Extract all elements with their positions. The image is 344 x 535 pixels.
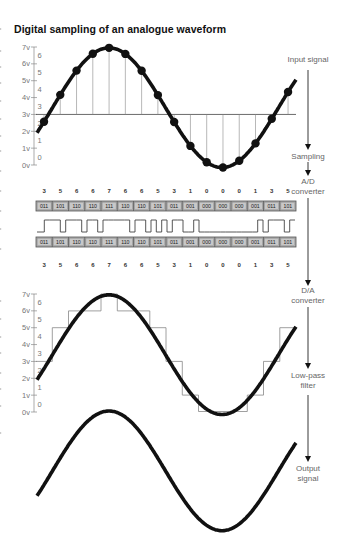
arrow-down-icon [305,363,311,369]
binary-code: 110 [121,203,129,209]
binary-code: 110 [121,239,129,245]
arrow-down-icon [305,144,311,150]
sample-value: 0 [221,262,225,268]
voltage-tick-label: 6v [22,306,30,315]
edge-mark [0,118,1,120]
sample-dot [186,142,194,150]
process-flow: Input signal Sampling A/D converter D/A … [288,55,329,483]
binary-code: 111 [105,203,113,209]
label-input-signal: Input signal [288,55,329,64]
binary-code: 110 [89,203,97,209]
binary-code: 111 [105,239,113,245]
sample-value: 7 [107,262,111,268]
edge-mark [0,170,1,172]
level-label: 0 [38,400,42,409]
label-output-line2: signal [298,474,319,483]
sample-value: 3 [270,188,274,194]
binary-code: 001 [186,239,195,245]
binary-code: 000 [219,203,228,209]
edge-mark [0,248,1,250]
sample-value: 1 [254,188,258,194]
sample-dot [72,66,80,74]
binary-code: 000 [235,239,244,245]
binary-code: 101 [284,239,293,245]
voltage-tick-label: 4v [22,93,30,102]
sample-dot [268,115,276,123]
binary-code: 101 [56,239,65,245]
binary-code: 000 [235,203,244,209]
voltage-tick-label: 0v [22,408,30,417]
arrow-down-icon [305,456,311,462]
sample-dot [219,163,227,171]
voltage-tick-label: 0v [22,161,30,170]
digital-pulse-train [37,220,295,232]
binary-code: 000 [202,239,211,245]
voltage-tick-label: 2v [22,127,30,136]
binary-code: 110 [89,239,97,245]
sample-value: 3 [172,262,176,268]
binary-code: 110 [72,203,80,209]
sample-value: 0 [221,188,225,194]
sample-value: 5 [59,188,63,194]
label-lowpass-line2: filter [300,381,315,390]
label-da-line2: converter [291,296,325,305]
voltage-tick-label: 1v [22,391,30,400]
sample-value: 6 [140,188,144,194]
sample-values-top: 3566766531000135 [42,188,290,194]
sample-dot [56,91,64,99]
voltage-tick-label: 3v [22,357,30,366]
level-label: 3 [38,349,42,358]
edge-mark [0,300,1,302]
sampling-diagram: 7v6v5v4v3v2v1v0v6543210 3566766531000135… [0,0,344,535]
sample-dot [170,118,178,126]
left-edge-artifacts [0,28,1,434]
label-ad-line1: A/D [301,177,315,186]
input-signal-chart: 7v6v5v4v3v2v1v0v6543210 [22,43,296,172]
label-lowpass-line1: Low-pass [291,371,325,380]
label-ad-line2: converter [291,187,325,196]
sample-value: 0 [237,188,241,194]
sample-value: 1 [189,262,193,268]
binary-code: 110 [137,239,145,245]
da-output-chart: 7v6v5v4v3v2v1v0v6543210 [22,290,296,417]
binary-code: 011 [267,239,275,245]
sample-dot [235,157,243,165]
input-waveform [37,48,296,168]
binary-code: 011 [40,239,48,245]
voltage-tick-label: 2v [22,374,30,383]
edge-mark [0,336,1,338]
voltage-tick-label: 6v [22,59,30,68]
edge-mark [0,66,1,68]
level-label: 3 [38,102,42,111]
edge-mark [0,190,1,192]
binary-code: 011 [40,203,48,209]
edge-mark [0,318,1,320]
voltage-axis: 7v6v5v4v3v2v1v0v6543210 [22,43,42,170]
binary-code: 001 [186,203,195,209]
edge-mark [0,228,1,230]
sample-value: 6 [91,188,95,194]
level-label: 1 [38,383,42,392]
sample-value: 5 [59,262,63,268]
binary-code: 101 [154,239,163,245]
binary-code: 011 [170,239,178,245]
sample-value: 5 [156,188,160,194]
label-da-line1: D/A [301,286,315,295]
sample-value: 3 [270,262,274,268]
level-label: 0 [38,153,42,162]
binary-code: 101 [56,203,65,209]
level-label: 5 [38,68,42,77]
sample-value: 5 [286,262,290,268]
sample-value: 5 [156,262,160,268]
sample-value: 1 [254,262,258,268]
voltage-tick-label: 1v [22,144,30,153]
edge-mark [0,82,1,84]
sample-value: 3 [42,188,46,194]
binary-code: 110 [137,203,145,209]
sample-value: 1 [189,188,193,194]
edge-mark [0,405,1,407]
binary-row-top: 0111011101101111101101010110010000000000… [36,201,296,211]
sample-dot [40,117,48,125]
sample-dot [137,67,145,75]
voltage-tick-label: 5v [22,323,30,332]
